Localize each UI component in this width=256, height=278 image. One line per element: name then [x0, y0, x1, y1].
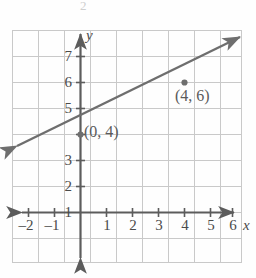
x-axis-label: x [243, 218, 250, 233]
y-tick-label-2: 2 [56, 179, 72, 194]
x-tick-label-1: 1 [99, 218, 115, 233]
x-tick-label-2: 2 [125, 218, 141, 233]
x-tick-label-3: 3 [151, 218, 167, 233]
y-tick-label-5: 5 [56, 101, 72, 116]
y-tick-label-7: 7 [56, 49, 72, 64]
x-tick-label-5: 5 [203, 218, 219, 233]
graph-figure: 2 7 6 5 3 2 1 –2 –1 1 2 3 4 5 6 y x (0, … [0, 0, 256, 278]
annotation-point-0-4: (0, 4) [84, 124, 119, 140]
point-4-6 [181, 79, 187, 85]
point-0-4 [77, 131, 83, 137]
y-tick-label-6: 6 [56, 75, 72, 90]
annotation-point-4-6: (4, 6) [175, 88, 210, 104]
coordinate-plane [0, 0, 256, 278]
y-axis-label: y [86, 28, 93, 43]
x-tick-label-minus-2: –2 [18, 218, 34, 233]
x-tick-label-6: 6 [225, 218, 241, 233]
x-tick-label-4: 4 [177, 218, 193, 233]
x-tick-label-minus-1: –1 [44, 218, 60, 233]
scan-artifact: 2 [80, 0, 87, 14]
y-tick-label-3: 3 [56, 153, 72, 168]
